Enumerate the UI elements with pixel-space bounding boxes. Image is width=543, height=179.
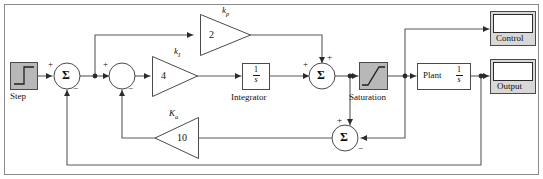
step-block[interactable] <box>11 63 38 90</box>
junction-dot-nodeC <box>403 74 408 79</box>
saturation-block[interactable] <box>360 63 388 90</box>
sum1-minus-sign: − <box>73 84 78 93</box>
wire-kp-to-sum2 <box>250 35 322 63</box>
plant-transfer-function: 1 s <box>452 66 466 85</box>
gain-ki-name: kI <box>174 47 180 58</box>
plant-numerator: 1 <box>452 66 466 74</box>
gain-ka-value: 10 <box>177 133 187 143</box>
junction2-minus-sign: − <box>128 84 133 93</box>
scope-output-label: Output <box>497 82 522 91</box>
diagram-svg <box>0 0 543 179</box>
gain-kp-value: 2 <box>209 30 214 40</box>
junction-dot-nodeB <box>348 74 353 79</box>
junction-dot-nodeA <box>93 74 98 79</box>
step-label: Step <box>10 92 26 101</box>
sum1-plus-sign: + <box>48 60 53 69</box>
block-diagram-canvas: Step Σ + − + − kp 2 kI 4 Ka 10 1 s Integ… <box>0 0 543 179</box>
integrator-numerator: 1 <box>249 66 263 74</box>
saturation-label: Saturation <box>349 93 386 102</box>
sum3-minus-sign-right: − <box>358 144 363 153</box>
wire-ka-to-junction2 <box>122 90 155 138</box>
gain-ki-value: 4 <box>161 71 166 81</box>
gain-ka-name-sub: a <box>175 113 178 120</box>
sum2-plus-sign-top: + <box>327 53 332 62</box>
plant-label: Plant <box>423 71 442 80</box>
sum1-sigma: Σ <box>62 69 70 81</box>
sum3-sigma: Σ <box>340 131 348 143</box>
junction2-plus-sign: + <box>103 60 108 69</box>
plant-denominator: s <box>452 76 466 84</box>
gain-kp-block[interactable] <box>201 15 251 56</box>
integrator-transfer-function: 1 s <box>249 66 263 85</box>
gain-ka-name: Ka <box>169 109 178 120</box>
gain-kp-name: kp <box>222 6 229 17</box>
sum3-plus-sign-top: + <box>337 116 342 125</box>
sum2-sigma: Σ <box>317 69 325 81</box>
gain-ki-name-sub: I <box>178 51 180 58</box>
sum2-plus-sign-left: + <box>303 60 308 69</box>
integrator-label: Integrator <box>231 93 266 102</box>
scope-control-label: Control <box>496 34 524 43</box>
gain-ki-block[interactable] <box>153 57 198 97</box>
junction-dot-nodeD <box>479 74 484 79</box>
integrator-denominator: s <box>249 76 263 84</box>
gain-kp-name-sub: p <box>226 10 229 17</box>
